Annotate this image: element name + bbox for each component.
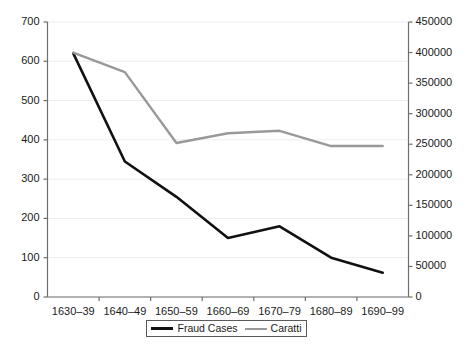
axis-ticks [44,22,413,301]
left-axis-tick-label: 200 [0,212,40,223]
right-axis-tick-label: 400000 [416,47,453,58]
left-axis-tick-label: 500 [0,95,40,106]
legend-label-fraud-cases: Fraud Cases [177,323,237,334]
left-axis-tick-label: 100 [0,252,40,263]
chart-legend: Fraud Cases Caratti [146,320,307,337]
right-axis-tick-label: 50000 [416,260,447,271]
legend-label-caratti: Caratti [271,323,302,334]
right-axis-tick-label: 200000 [416,169,453,180]
left-axis-tick-label: 700 [0,16,40,27]
series-line-fraud-cases [73,53,382,272]
right-axis-tick-label: 100000 [416,230,453,241]
left-axis-tick-label: 0 [0,291,40,302]
right-axis-tick-label: 150000 [416,199,453,210]
legend-item-caratti: Caratti [245,323,302,334]
left-axis-tick-label: 300 [0,173,40,184]
chart-container: 0100200300400500600700 05000010000015000… [0,0,471,353]
legend-swatch-caratti [245,328,267,330]
series-line-caratti [73,53,382,147]
legend-item-fraud-cases: Fraud Cases [151,323,237,334]
right-axis-tick-label: 0 [416,291,422,302]
legend-swatch-fraud-cases [151,327,173,330]
chart-plot-area [0,0,471,353]
data-series-lines [73,53,382,273]
left-axis-tick-label: 400 [0,134,40,145]
x-axis-tick-label: 1690–99 [353,306,413,317]
right-axis-tick-label: 350000 [416,77,453,88]
right-axis-tick-label: 300000 [416,108,453,119]
left-axis-tick-label: 600 [0,55,40,66]
right-axis-tick-label: 450000 [416,16,453,27]
right-axis-tick-label: 250000 [416,138,453,149]
